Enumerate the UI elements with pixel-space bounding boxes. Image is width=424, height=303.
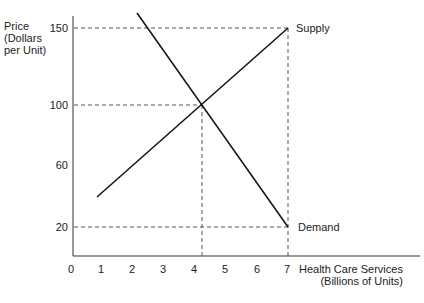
x-tick-label: 4 (187, 263, 201, 275)
x-axis-label-line: Health Care Services (299, 263, 403, 275)
reference-lines (74, 28, 288, 256)
y-tick-label: 60 (38, 159, 68, 171)
x-tick-label: 1 (94, 263, 108, 275)
supply-curve (97, 28, 288, 197)
y-tick-label: 150 (38, 22, 68, 34)
x-axis-label-line: (Billions of Units) (299, 275, 403, 287)
y-axis-label-line: per Unit) (4, 44, 46, 56)
x-tick-label: 2 (125, 263, 139, 275)
x-tick-label: 7 (280, 263, 294, 275)
x-tick-label: 6 (250, 263, 264, 275)
y-tick-label: 100 (38, 99, 68, 111)
x-tick-label: 3 (156, 263, 170, 275)
x-tick-label: 0 (64, 263, 78, 275)
demand-curve (137, 13, 288, 227)
chart-plot (0, 0, 424, 303)
demand-label: Demand (298, 221, 340, 233)
supply-label: Supply (296, 22, 330, 34)
y-tick-label: 20 (38, 221, 68, 233)
x-tick-label: 5 (218, 263, 232, 275)
x-axis-label: Health Care Services (Billions of Units) (299, 263, 403, 287)
